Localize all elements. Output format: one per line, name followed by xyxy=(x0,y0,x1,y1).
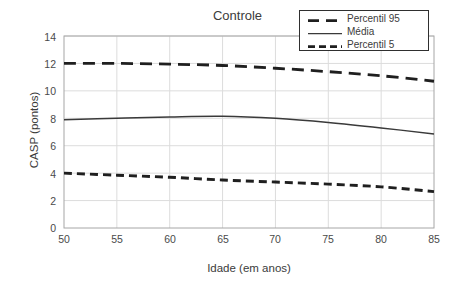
series-line xyxy=(64,63,434,81)
legend-label: Média xyxy=(347,26,374,37)
legend: Percentil 95 Média Percentil 5 xyxy=(299,10,429,51)
legend-swatch-solid-icon xyxy=(308,32,342,35)
legend-item-percentil-5: Percentil 5 xyxy=(300,40,430,53)
chart-figure: Controle CASP (pontos) Idade (em anos) 1… xyxy=(0,0,456,290)
gridlines xyxy=(64,36,434,228)
series-line xyxy=(64,116,434,134)
data-series-layer xyxy=(64,63,434,191)
plot-border xyxy=(64,36,434,228)
legend-label: Percentil 95 xyxy=(347,13,400,24)
series-line xyxy=(64,173,434,192)
legend-label: Percentil 5 xyxy=(347,39,394,50)
legend-swatch-dashed-long-icon xyxy=(308,19,342,22)
legend-swatch-dashed-short-icon xyxy=(308,45,342,48)
